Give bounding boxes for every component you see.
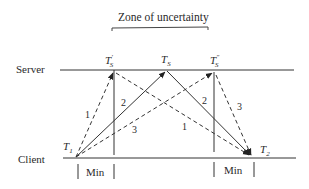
- message-ret-1: [116, 73, 249, 155]
- min-label-left: Min: [86, 167, 104, 178]
- message-label-ret-3: 3: [237, 102, 242, 112]
- server-time-left: T′S: [105, 54, 113, 69]
- message-out-3: [76, 73, 212, 157]
- zone-bracket: [112, 27, 208, 31]
- client-label: Client: [18, 154, 45, 165]
- server-time-right: T″S: [210, 54, 219, 69]
- diagram-canvas: [0, 0, 309, 189]
- message-label-out-3: 3: [132, 125, 137, 135]
- message-label-ret-1: 1: [182, 122, 187, 132]
- zone-title: Zone of uncertainty: [118, 12, 209, 24]
- server-time-middle: TS: [161, 54, 171, 68]
- min-label-right: Min: [224, 165, 242, 176]
- message-ret-3: [216, 75, 251, 155]
- client-time-end: T2: [260, 144, 270, 158]
- message-ret-2: [167, 71, 250, 155]
- client-time-start: T1: [63, 141, 73, 155]
- server-label: Server: [16, 64, 45, 75]
- message-label-out-1: 1: [85, 110, 90, 120]
- message-label-out-2: 2: [121, 98, 126, 108]
- message-out-1: [76, 73, 113, 157]
- message-label-ret-2: 2: [202, 96, 207, 106]
